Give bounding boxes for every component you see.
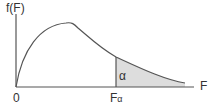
alpha-area-label: α [119, 70, 126, 82]
y-axis-label: f(F) [6, 2, 25, 14]
critical-alpha-sub: α [117, 94, 122, 104]
origin-label: 0 [13, 92, 20, 104]
critical-value-label: Fα [110, 92, 123, 104]
x-axis-label: F [200, 80, 207, 92]
f-distribution-chart [0, 0, 211, 108]
